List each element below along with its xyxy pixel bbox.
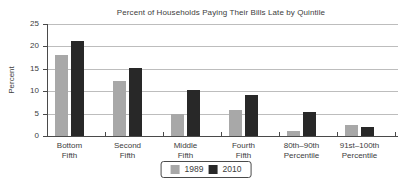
x-axis-line	[47, 136, 398, 137]
bar-1989-4	[287, 131, 300, 136]
legend-label-1989: 1989	[185, 165, 204, 174]
gridline-5	[47, 114, 398, 115]
x-tick-mark-4	[279, 132, 280, 137]
y-tick-label-0: 0	[15, 131, 39, 141]
gridline-15	[47, 69, 398, 70]
y-tick-label-25: 25	[15, 19, 39, 29]
bills-late-bar-chart: Percent of Households Paying Their Bills…	[0, 0, 403, 195]
x-tick-mark-5	[337, 132, 338, 137]
x-tick-mark-3	[221, 132, 222, 137]
x-tick-mark-6	[395, 132, 396, 137]
y-axis-line	[47, 24, 48, 137]
bar-2010-3	[245, 95, 258, 136]
y-tick-label-20: 20	[15, 41, 39, 51]
bar-1989-2	[171, 114, 184, 136]
x-tick-mark-2	[163, 132, 164, 137]
gridline-10	[47, 91, 398, 92]
legend-label-2010: 2010	[223, 165, 242, 174]
bar-2010-2	[187, 90, 200, 136]
bar-2010-0	[71, 41, 84, 136]
legend-swatch-1989	[171, 165, 180, 174]
bar-1989-1	[113, 81, 126, 136]
bar-1989-5	[345, 125, 358, 136]
legend: 1989 2010	[161, 161, 252, 178]
x-category-label-5: 91st–100thPercentile	[325, 141, 395, 160]
y-tick-label-5: 5	[15, 109, 39, 119]
gridline-25	[47, 24, 398, 25]
bar-1989-0	[55, 55, 68, 136]
y-tick-label-10: 10	[15, 86, 39, 96]
x-tick-mark-1	[105, 132, 106, 137]
bar-1989-3	[229, 110, 242, 136]
bar-2010-5	[361, 127, 374, 136]
x-category-label-line: Percentile	[325, 151, 395, 161]
legend-swatch-2010	[209, 165, 218, 174]
chart-title: Percent of Households Paying Their Bills…	[47, 8, 395, 17]
bar-2010-1	[129, 68, 142, 136]
y-tick-label-15: 15	[15, 64, 39, 74]
bar-2010-4	[303, 112, 316, 136]
x-category-label-line: 91st–100th	[325, 141, 395, 151]
gridline-20	[47, 46, 398, 47]
